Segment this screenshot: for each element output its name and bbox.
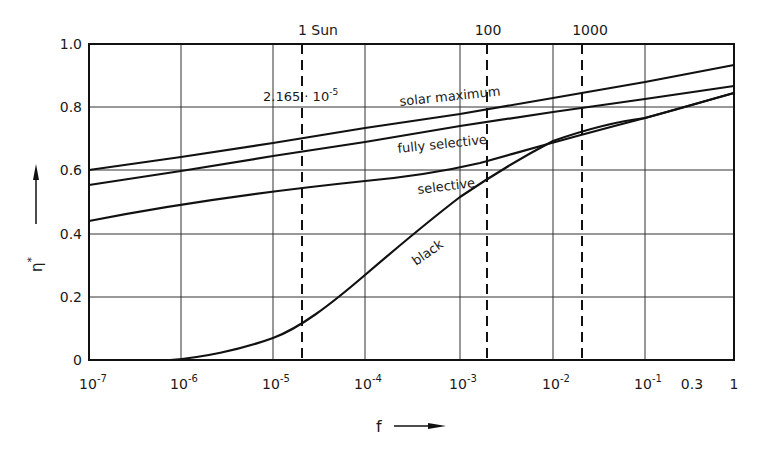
y-tick-1-0: 1.0 [60,36,82,52]
x-tick-1e-4: 10-4 [354,373,382,392]
x-tick-1e-2: 10-2 [542,373,570,392]
annotation-1-sun-value: 2.165 · 10-5 [263,87,338,104]
y-tick-labels: 0 0.2 0.4 0.6 0.8 1.0 [60,36,82,368]
x-tick-1e-7: 10-7 [79,373,107,392]
label-selective: selective [417,175,476,197]
plot-frame [89,44,734,360]
x-axis-arrowhead-icon [428,423,446,429]
y-axis-label: η* [25,256,46,272]
x-tick-labels: 10-7 10-6 10-5 10-4 10-3 10-2 10-1 0.3 1 [79,373,738,392]
curves [89,65,734,360]
y-tick-0-6: 0.6 [60,162,82,178]
y-tick-0: 0 [73,352,82,368]
label-black: black [409,236,446,268]
y-tick-0-2: 0.2 [60,289,82,305]
efficiency-chart: solar maximum fully selective selective … [0,0,764,453]
grid [89,44,734,360]
label-solar-maximum: solar maximum [399,83,501,109]
x-tick-1: 1 [730,376,739,392]
x-tick-1e-1: 10-1 [634,373,662,392]
x-tick-1e-6: 10-6 [170,373,198,392]
x-tick-1e-3: 10-3 [449,373,477,392]
top-label-1-sun: 1 Sun [298,22,338,38]
x-tick-0-3: 0.3 [681,376,703,392]
x-axis-label: f [376,417,382,436]
top-label-1000: 1000 [572,22,608,38]
curve-black [170,93,734,360]
y-tick-0-8: 0.8 [60,99,82,115]
y-axis-title: η* [25,164,46,272]
y-tick-0-4: 0.4 [60,226,82,242]
y-axis-arrowhead-icon [33,164,39,180]
top-label-100: 100 [475,22,502,38]
x-tick-1e-5: 10-5 [262,373,290,392]
x-axis-title: f [376,417,446,436]
